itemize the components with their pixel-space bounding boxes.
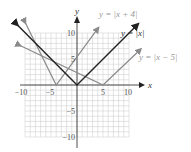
equation-label-abs-x-minus-5: y = |x − 5|	[138, 52, 178, 62]
tick-y-10: 10	[67, 29, 75, 38]
equation-label-abs-x-plus-4: y = |x + 4|	[98, 9, 138, 19]
equation-label-abs-x: y = |x|	[120, 28, 145, 38]
tick-x-neg10: −10	[15, 88, 28, 97]
tick-y-neg10: −10	[62, 133, 75, 142]
tick-y-neg5: −5	[66, 107, 75, 116]
tick-x-10: 10	[124, 88, 132, 97]
tick-y-5: 5	[71, 55, 75, 64]
graph: −10 −5 5 10 10 5 −5 −10 x y y = |x + 4| …	[0, 0, 191, 152]
y-axis-arrow-icon	[74, 16, 80, 23]
x-axis-arrow-icon	[139, 82, 145, 88]
tick-x-neg5: −5	[46, 88, 55, 97]
x-axis-label: x	[147, 80, 152, 90]
tick-x-5: 5	[101, 88, 105, 97]
y-axis-label: y	[74, 6, 79, 16]
